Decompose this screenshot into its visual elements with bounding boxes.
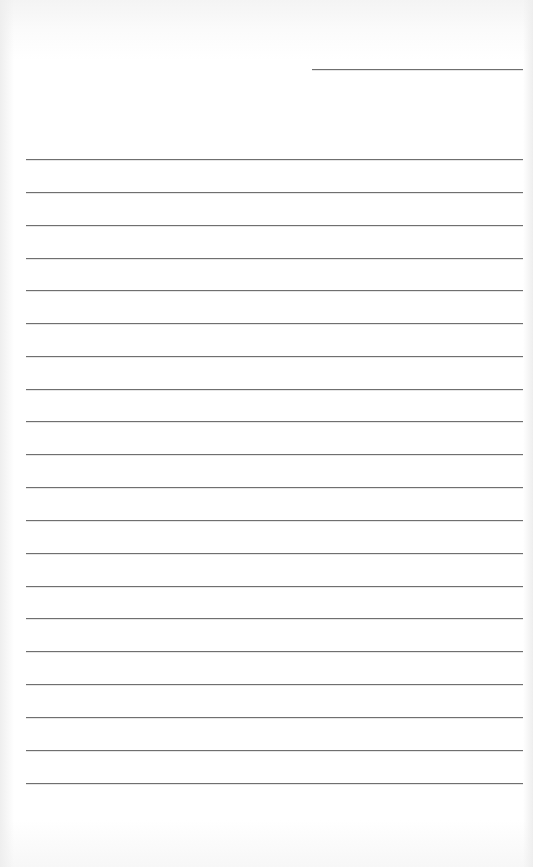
lined-paper-sheet xyxy=(0,0,533,867)
writing-line xyxy=(26,783,523,784)
writing-line xyxy=(26,421,523,422)
writing-line xyxy=(26,356,523,357)
writing-line xyxy=(26,258,523,259)
header-date-line xyxy=(312,69,523,70)
writing-line xyxy=(26,553,523,554)
writing-line xyxy=(26,323,523,324)
writing-line xyxy=(26,290,523,291)
writing-line xyxy=(26,487,523,488)
writing-line xyxy=(26,454,523,455)
writing-line xyxy=(26,750,523,751)
writing-line xyxy=(26,717,523,718)
writing-line xyxy=(26,225,523,226)
writing-line xyxy=(26,651,523,652)
writing-line xyxy=(26,618,523,619)
writing-line xyxy=(26,389,523,390)
writing-line xyxy=(26,586,523,587)
writing-line xyxy=(26,192,523,193)
writing-line xyxy=(26,520,523,521)
writing-line xyxy=(26,684,523,685)
writing-line xyxy=(26,159,523,160)
